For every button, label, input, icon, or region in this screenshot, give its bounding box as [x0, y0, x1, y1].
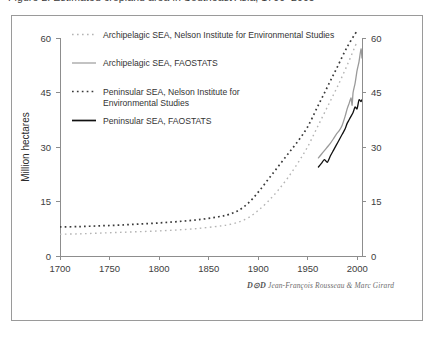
x-tick-1850: 1850	[198, 263, 219, 274]
y-tick-right-60: 60	[371, 33, 382, 44]
y-axis-title: Million hectares	[20, 112, 31, 181]
publisher-logo-icon: D⊙D	[247, 281, 266, 290]
x-axis-ticks	[60, 256, 357, 260]
y-tick-right-30: 30	[371, 142, 382, 153]
x-tick-1700: 1700	[49, 263, 70, 274]
x-tick-2000: 2000	[347, 263, 368, 274]
x-tick-1900: 1900	[248, 263, 269, 274]
legend-label-peninsular-nies-line2: Environmental Studies	[103, 98, 189, 108]
y-tick-left-0: 0	[46, 251, 51, 262]
legend-item-archipelagic-nies: Archipelagic SEA, Nelson Institute for E…	[72, 30, 334, 40]
legend-label-peninsular-faostats: Peninsular SEA, FAOSTATS	[103, 116, 212, 126]
x-tick-1950: 1950	[297, 263, 318, 274]
legend-label-peninsular-nies-line1: Peninsular SEA, Nelson Institute for	[103, 87, 240, 97]
y-tick-left-45: 45	[40, 87, 51, 98]
credit-attribution: D⊙DJean-François Rousseau & Marc Girard	[247, 281, 394, 290]
series-line-1	[318, 49, 362, 158]
legend-item-peninsular-nies: Peninsular SEA, Nelson Institute for Env…	[72, 87, 240, 108]
y-tick-right-15: 15	[371, 196, 382, 207]
y-tick-right-45: 45	[371, 87, 382, 98]
legend-item-peninsular-faostats: Peninsular SEA, FAOSTATS	[72, 116, 212, 126]
credit-authors: Jean-François Rousseau & Marc Girard	[268, 281, 394, 290]
y-axis-left-ticks	[56, 38, 60, 256]
y-tick-right-0: 0	[371, 251, 376, 262]
series-line-0	[60, 42, 357, 235]
y-tick-left-15: 15	[40, 196, 51, 207]
legend-item-archipelagic-faostats: Archipelagic SEA, FAOSTATS	[72, 58, 218, 68]
figure-frame: 0 15 30 45 60 0 15 30 45 60	[11, 15, 423, 321]
x-axis-labels: 1700 1750 1800 1850 1900 1950 2000	[49, 263, 367, 274]
line-chart: 0 15 30 45 60 0 15 30 45 60	[12, 16, 422, 320]
x-tick-1800: 1800	[149, 263, 170, 274]
clipped-caption-text: Figure 2. Estimated cropland area in Sou…	[8, 0, 428, 3]
y-axis-right-ticks	[362, 38, 366, 256]
legend-label-archipelagic-faostats: Archipelagic SEA, FAOSTATS	[103, 58, 218, 68]
x-tick-1750: 1750	[99, 263, 120, 274]
y-tick-left-30: 30	[40, 142, 51, 153]
chart-legend: Archipelagic SEA, Nelson Institute for E…	[72, 30, 334, 126]
series-line-3	[318, 100, 362, 167]
legend-label-archipelagic-nies: Archipelagic SEA, Nelson Institute for E…	[103, 30, 334, 40]
y-tick-left-60: 60	[40, 33, 51, 44]
y-axis-right-labels: 0 15 30 45 60	[371, 33, 382, 262]
figure-root: Figure 2. Estimated cropland area in Sou…	[0, 0, 437, 337]
y-axis-left-labels: 0 15 30 45 60	[40, 33, 51, 262]
